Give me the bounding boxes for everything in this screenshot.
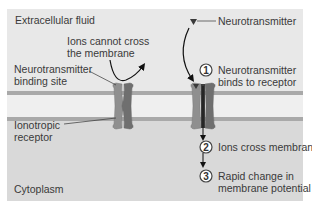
step-2-marker: 2 [200,141,212,153]
membrane-interior [7,95,303,117]
svg-text:3: 3 [203,171,209,182]
extracellular-fluid-label: Extracellular fluid [15,14,95,26]
binding-site-line-1: Neurotransmitter [14,63,92,75]
binding-site-label: Neurotransmitter binding site [14,63,92,87]
step-1-text: Neurotransmitter binds to receptor [218,64,296,88]
step-3-line-1: Rapid change in [218,170,311,182]
ions-cannot-cross-line-2: the membrane [67,47,149,59]
step-1-line-1: Neurotransmitter [218,64,296,76]
step-1-marker: 1 [200,64,212,76]
step-3-line-2: membrane potential [218,182,311,194]
binding-site-line-2: binding site [14,75,92,87]
ionotropic-receptor-line-2: receptor [14,131,60,143]
neurotransmitter-label: Neurotransmitter [218,15,296,27]
svg-text:1: 1 [203,65,209,76]
ions-cannot-cross-line-1: Ions cannot cross [67,35,149,47]
step-3-marker: 3 [200,170,212,182]
ions-cannot-cross-label: Ions cannot cross the membrane [67,35,149,59]
step-1-line-2: binds to receptor [218,76,296,88]
step-2-text: Ions cross membrane [218,141,312,153]
ionotropic-receptor-label: Ionotropic receptor [14,119,60,143]
cytoplasm-label: Cytoplasm [14,183,64,195]
ionotropic-receptor-line-1: Ionotropic [14,119,60,131]
svg-text:2: 2 [203,142,209,153]
ionotropic-receptor-diagram: 1 2 3 Extracellular fluid Ions cannot cr… [0,0,312,211]
step-2-line-1: Ions cross membrane [218,141,312,153]
membrane-outer-leaflet [7,91,303,95]
step-3-text: Rapid change in membrane potential [218,170,311,194]
